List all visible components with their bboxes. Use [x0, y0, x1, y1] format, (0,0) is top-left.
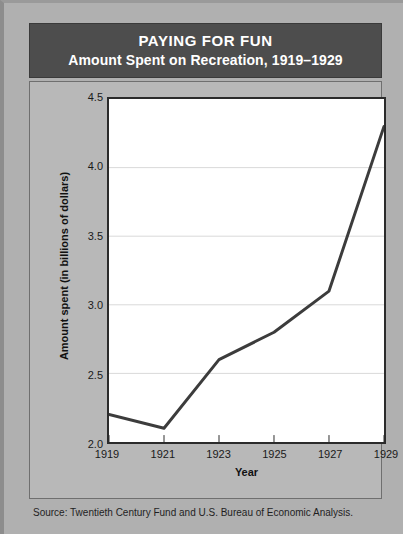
x-axis-tick-label: 1927 [318, 448, 342, 460]
x-axis-tick-label: 1919 [95, 448, 119, 460]
source-note: Source: Twentieth Century Fund and U.S. … [33, 507, 353, 518]
y-axis-tick-label: 4.5 [88, 91, 103, 103]
x-axis-tick-label: 1923 [206, 448, 230, 460]
chart-title-bar: PAYING FOR FUN Amount Spent on Recreatio… [29, 23, 382, 78]
x-axis-title: Year [107, 466, 386, 478]
x-axis-tick-label: 1925 [262, 448, 286, 460]
y-axis-tick-labels: 2.02.53.03.54.04.5 [60, 97, 103, 444]
data-line [109, 126, 384, 428]
chart-panel: Amount spent (in billions of dollars) 2.… [29, 81, 382, 499]
data-line-series [109, 99, 384, 442]
y-axis-tick-label: 3.5 [88, 230, 103, 242]
chart-figure: PAYING FOR FUN Amount Spent on Recreatio… [0, 0, 403, 534]
y-axis-tick-label: 2.5 [88, 369, 103, 381]
x-axis-tick-label: 1921 [151, 448, 175, 460]
plot-area [107, 97, 386, 444]
x-axis-tick-label: 1929 [374, 448, 398, 460]
x-axis-tick-labels: 191919211923192519271929 [107, 448, 386, 464]
chart-title: PAYING FOR FUN [138, 32, 272, 49]
y-axis-tick-label: 4.0 [88, 160, 103, 172]
chart-subtitle: Amount Spent on Recreation, 1919–1929 [68, 52, 342, 69]
y-axis-tick-label: 3.0 [88, 299, 103, 311]
